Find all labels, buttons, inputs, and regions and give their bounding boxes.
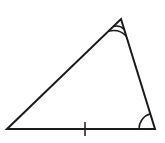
triangle-diagram [0,0,165,143]
top-angle-arc-outer [108,31,126,36]
right-angle-arc [139,114,150,129]
triangle [7,19,155,129]
